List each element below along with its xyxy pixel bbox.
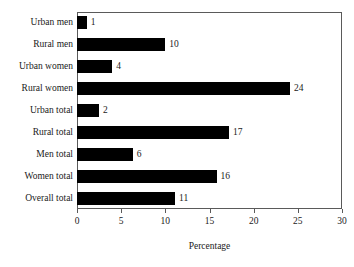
bar-value-label: 2 xyxy=(103,104,108,117)
x-tick-mark xyxy=(298,209,299,213)
x-tick-label: 30 xyxy=(330,215,354,227)
bar xyxy=(77,38,165,51)
bar xyxy=(77,104,99,117)
category-label: Women total xyxy=(0,170,73,183)
bar-chart: Urban menRural menUrban womenRural women… xyxy=(0,0,354,267)
bar xyxy=(77,148,133,161)
category-label: Urban men xyxy=(0,16,73,29)
bar xyxy=(77,60,112,73)
category-label: Rural women xyxy=(0,82,73,95)
bar-value-label: 10 xyxy=(169,38,179,51)
bar xyxy=(77,16,87,29)
category-label: Rural total xyxy=(0,126,73,139)
x-tick-label: 10 xyxy=(153,215,177,227)
x-tick-label: 0 xyxy=(65,215,89,227)
x-tick-mark xyxy=(121,209,122,213)
category-label: Overall total xyxy=(0,192,73,205)
bar xyxy=(77,126,229,139)
x-axis-title: Percentage xyxy=(77,240,342,252)
bar-value-label: 6 xyxy=(137,148,142,161)
x-tick-label: 15 xyxy=(198,215,222,227)
x-tick-mark xyxy=(210,209,211,213)
category-label: Men total xyxy=(0,148,73,161)
category-label: Urban total xyxy=(0,104,73,117)
x-tick-mark xyxy=(342,209,343,213)
bar-value-label: 17 xyxy=(233,126,243,139)
category-label: Rural men xyxy=(0,38,73,51)
bar-value-label: 4 xyxy=(116,60,121,73)
x-tick-mark xyxy=(77,209,78,213)
category-label: Urban women xyxy=(0,60,73,73)
x-tick-label: 25 xyxy=(286,215,310,227)
bar-value-label: 1 xyxy=(91,16,96,29)
bar xyxy=(77,82,290,95)
x-tick-mark xyxy=(165,209,166,213)
bar-value-label: 16 xyxy=(221,170,231,183)
x-tick-label: 5 xyxy=(109,215,133,227)
bar xyxy=(77,192,175,205)
x-tick-mark xyxy=(254,209,255,213)
bar-value-label: 24 xyxy=(294,82,304,95)
x-tick-label: 20 xyxy=(242,215,266,227)
bar-value-label: 11 xyxy=(179,192,188,205)
bar xyxy=(77,170,217,183)
